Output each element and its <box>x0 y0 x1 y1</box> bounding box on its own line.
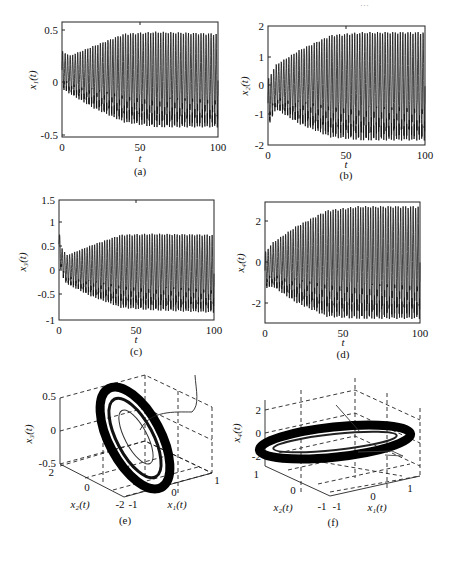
x-axis-label: x₁(t) <box>366 501 386 514</box>
y-axis-label: x₄(t) <box>234 253 247 273</box>
panel-e <box>60 375 212 500</box>
panel-a: 0.5 0 -0.5 0 50 100 t x₁(t) (a) <box>26 22 227 178</box>
xtick: 0 <box>265 149 271 161</box>
ytick: 1 <box>254 468 260 480</box>
ytick: -1 <box>317 500 326 512</box>
xtick: 0 <box>171 486 177 498</box>
ytick: -2 <box>115 498 124 510</box>
ztick: 0.5 <box>42 390 56 402</box>
ztick: 2 <box>256 404 262 416</box>
ytick: 2 <box>256 215 262 227</box>
z-axis-label: x₄(t) <box>230 423 243 443</box>
ytick: -1 <box>46 314 55 326</box>
ztick: -2 <box>252 450 261 462</box>
y-axis-label: x₂(t) <box>238 76 251 96</box>
x-axis-label: x₁(t) <box>166 498 186 511</box>
caption-a: (a) <box>134 165 147 178</box>
xtick: 100 <box>210 141 227 153</box>
xtick: 100 <box>206 324 223 336</box>
header-fragment: … <box>360 0 369 8</box>
caption-d: (d) <box>337 348 350 361</box>
ytick: 0 <box>50 264 56 276</box>
panel-c: 1.5 1 0.5 0 -0.5 -1 0 50 100 t x₃(t) (c) <box>16 194 223 358</box>
x-axis-label: t <box>138 152 142 164</box>
xtick: 0 <box>262 327 268 339</box>
ytick: -2 <box>252 297 261 309</box>
caption-c: (c) <box>130 345 143 358</box>
ytick: 0 <box>53 76 59 88</box>
ztick: 0 <box>51 424 57 436</box>
waveform-b <box>268 32 425 141</box>
waveform-c <box>59 234 214 313</box>
caption-f: (f) <box>328 516 339 529</box>
panel-f <box>258 378 420 496</box>
y-axis-label: x₂(t) <box>69 498 89 511</box>
xtick: 0 <box>59 141 65 153</box>
caption-e: (e) <box>119 514 132 527</box>
ytick: -0.5 <box>41 129 59 141</box>
ytick: 0 <box>290 484 296 496</box>
caption-b: (b) <box>340 169 353 182</box>
ytick: 0.5 <box>41 240 55 252</box>
ytick: 2 <box>49 466 55 478</box>
xtick: 100 <box>417 149 434 161</box>
z-axis-label: x₃(t) <box>22 424 35 444</box>
waveform-a <box>62 32 218 128</box>
xtick: -1 <box>332 500 341 512</box>
y-axis-label: x₃(t) <box>16 252 29 272</box>
ytick: 1 <box>50 216 56 228</box>
xtick: 1 <box>407 482 413 494</box>
xtick: 1 <box>214 474 220 486</box>
waveform-d <box>265 206 420 319</box>
ytick: 1.5 <box>41 194 55 206</box>
xtick: 100 <box>412 327 429 339</box>
ytick: 1 <box>259 51 265 63</box>
ztick: 0 <box>256 427 262 439</box>
ytick: -0.5 <box>38 288 56 300</box>
ytick: 0.5 <box>44 24 58 36</box>
ytick: 0 <box>256 256 262 268</box>
xtick: 0 <box>56 324 62 336</box>
xtick: -1 <box>128 498 137 510</box>
panel-d: 2 0 -2 0 50 100 t x₄(t) (d) <box>234 202 429 361</box>
ytick: 0 <box>84 481 90 493</box>
ytick: -1 <box>255 108 264 120</box>
y-axis-label: x₁(t) <box>26 70 39 90</box>
panel-b: 2 1 0 -1 -2 0 50 100 t x₂(t) (b) <box>238 20 434 182</box>
ytick: 2 <box>259 20 265 32</box>
ytick: 0 <box>259 79 265 91</box>
figure: … 0.5 0 -0.5 0 50 100 t x₁(t) (a) 2 1 0 … <box>0 0 454 562</box>
ytick: -2 <box>255 139 264 151</box>
y-axis-label: x₂(t) <box>272 501 292 514</box>
